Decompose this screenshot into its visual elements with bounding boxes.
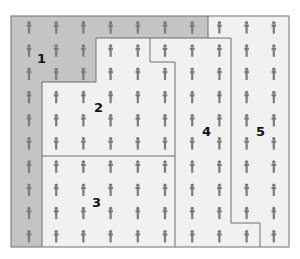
zone-label-4: 4 [202, 124, 211, 139]
zone-label-3: 3 [92, 195, 101, 210]
zone-diagram: 1 2 3 4 5 [0, 0, 300, 259]
zone-label-5: 5 [256, 124, 265, 139]
zone-label-1: 1 [37, 51, 46, 66]
zone-label-2: 2 [94, 100, 103, 115]
